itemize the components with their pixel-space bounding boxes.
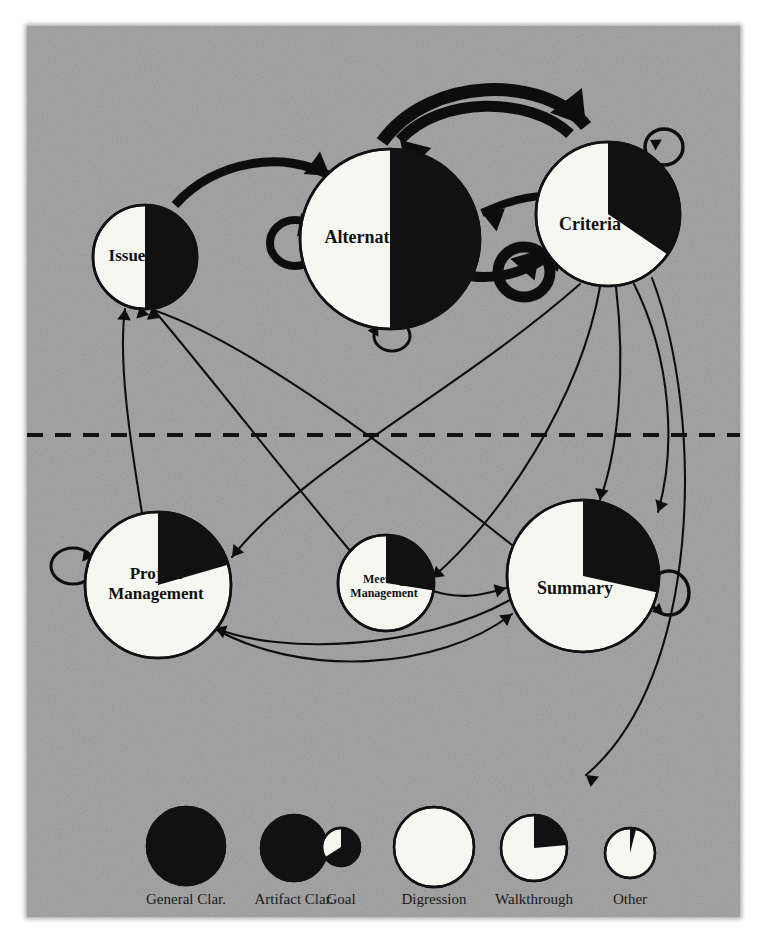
legend-item-artifact-clar[interactable]: Artifact Clar. bbox=[254, 815, 333, 907]
node-project-management[interactable]: ProjectManagement bbox=[85, 512, 231, 658]
legend-label: Digression bbox=[402, 891, 467, 907]
node-meeting-management[interactable]: MeetingManagement bbox=[338, 535, 434, 631]
legend-item-walkthrough[interactable]: Walkthrough bbox=[495, 815, 573, 907]
node-criteria[interactable]: Criteria bbox=[536, 142, 680, 286]
node-summary[interactable]: Summary bbox=[507, 500, 659, 652]
legend-item-digression[interactable]: Digression bbox=[394, 807, 474, 907]
legend-label: Walkthrough bbox=[495, 891, 573, 907]
legend-label: Other bbox=[613, 891, 647, 907]
diagram-canvas: IssueAlternativeCriteriaProjectManagemen… bbox=[0, 0, 764, 943]
diagram-figure: IssueAlternativeCriteriaProjectManagemen… bbox=[0, 0, 764, 943]
legend-label: Artifact Clar. bbox=[254, 891, 333, 907]
legend-item-general-clar[interactable]: General Clar. bbox=[146, 807, 226, 907]
legend-label: General Clar. bbox=[146, 891, 226, 907]
legend-label: Goal bbox=[326, 891, 355, 907]
node-alternative[interactable]: Alternative bbox=[300, 149, 480, 329]
node-issue[interactable]: Issue bbox=[93, 205, 197, 309]
